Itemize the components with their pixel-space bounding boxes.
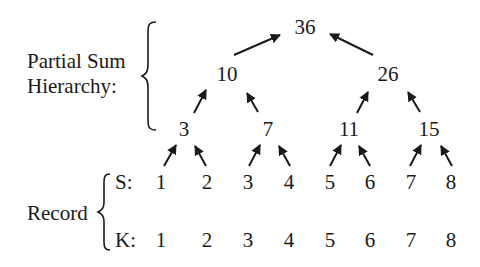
s-value: 4: [284, 172, 295, 193]
k-value: 6: [365, 230, 376, 251]
s-value: 2: [202, 172, 213, 193]
k-value: 2: [202, 230, 213, 251]
arrow-10-to-36: [234, 35, 280, 55]
s-value: 7: [406, 172, 417, 193]
record-brace: [98, 174, 110, 250]
k-value: 7: [406, 230, 417, 251]
hierarchy-brace: [142, 22, 156, 130]
k-value: 3: [243, 230, 254, 251]
s-value: 8: [446, 172, 457, 193]
k-value: 5: [325, 230, 336, 251]
hierarchy-label-line1: Partial Sum: [27, 51, 126, 72]
k-value: 4: [284, 230, 295, 251]
tree-node-l2: 11: [339, 119, 359, 140]
tree-node-l1: 10: [217, 64, 238, 85]
k-value: 1: [156, 230, 167, 251]
s-value: 5: [325, 172, 336, 193]
tree-node-l2: 15: [419, 119, 440, 140]
k-row-label: K:: [115, 230, 136, 251]
arrow-26-to-36: [330, 34, 373, 55]
s-value: 3: [243, 172, 254, 193]
tree-node-l1: 26: [378, 64, 399, 85]
tree-node-l2: 3: [179, 119, 190, 140]
s-value: 1: [156, 172, 167, 193]
hierarchy-label-line2: Hierarchy:: [27, 76, 117, 97]
record-label: Record: [27, 203, 88, 224]
s-value: 6: [365, 172, 376, 193]
tree-node-l2: 7: [263, 119, 274, 140]
tree-root: 36: [295, 17, 316, 38]
s-row-label: S:: [115, 172, 133, 193]
k-value: 8: [446, 230, 457, 251]
